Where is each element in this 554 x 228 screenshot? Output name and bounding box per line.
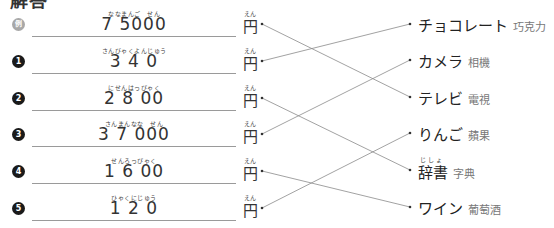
item-chinese: 字典 xyxy=(453,165,475,181)
item-dictionary: 辞書 字典 xyxy=(418,161,475,182)
left-dot[interactable] xyxy=(261,133,264,136)
number-badge-4: 4 xyxy=(12,165,25,178)
connection-line xyxy=(262,171,410,207)
amount-text: 3 4 0 xyxy=(32,51,236,71)
connection-line xyxy=(262,133,410,208)
item-chinese: 電視 xyxy=(468,91,490,107)
left-dot[interactable] xyxy=(261,97,264,100)
right-dot[interactable] xyxy=(409,23,412,26)
answer-underline xyxy=(32,110,236,111)
amount-text: 7 5000 xyxy=(32,14,236,34)
yen-label: 円 xyxy=(243,89,258,110)
item-japanese: りんご xyxy=(418,123,463,144)
left-dot[interactable] xyxy=(261,170,264,173)
item-tv: テレビ 電視 xyxy=(418,87,490,108)
left-dot[interactable] xyxy=(261,207,264,210)
item-japanese: テレビ xyxy=(418,87,463,108)
left-dot[interactable] xyxy=(261,23,264,26)
connection-line xyxy=(262,24,410,97)
right-dot[interactable] xyxy=(409,132,412,135)
amount-text: 3 7 000 xyxy=(32,124,236,144)
item-chinese: 巧克力 xyxy=(513,18,546,34)
item-chocolate: チョコレート 巧克力 xyxy=(418,14,546,35)
number-badge-2: 2 xyxy=(12,92,25,105)
number-badge-1: 1 xyxy=(12,55,25,68)
number-badge-5: 5 xyxy=(12,202,25,215)
item-apple: りんご 蘋果 xyxy=(418,123,490,144)
amount-text: 1 2 0 xyxy=(32,198,236,218)
left-dot[interactable] xyxy=(261,60,264,63)
connection-line xyxy=(262,98,410,170)
answer-underline xyxy=(32,146,236,147)
item-wine: ワイン 葡萄酒 xyxy=(418,197,501,218)
yen-label: 円 xyxy=(243,15,258,36)
item-chinese: 葡萄酒 xyxy=(468,201,501,217)
item-japanese: ワイン xyxy=(418,197,463,218)
yen-label: 円 xyxy=(243,199,258,220)
answer-underline xyxy=(32,183,236,184)
item-chinese: 相機 xyxy=(468,54,490,70)
right-dot[interactable] xyxy=(409,59,412,62)
amount-text: 1 6 00 xyxy=(32,161,236,181)
item-chinese: 蘋果 xyxy=(468,127,490,143)
yen-label: 円 xyxy=(243,52,258,73)
connection-line xyxy=(262,60,410,134)
answer-underline xyxy=(32,220,236,221)
example-badge: 例 xyxy=(12,18,25,31)
item-camera: カメラ 相機 xyxy=(418,50,490,71)
item-japanese: チョコレート xyxy=(418,14,508,35)
connection-line xyxy=(262,24,410,61)
yen-label: 円 xyxy=(243,162,258,183)
answer-underline xyxy=(32,73,236,74)
number-badge-3: 3 xyxy=(12,128,25,141)
right-dot[interactable] xyxy=(409,96,412,99)
item-japanese: カメラ xyxy=(418,50,463,71)
right-dot[interactable] xyxy=(409,206,412,209)
answer-underline xyxy=(32,36,236,37)
yen-label: 円 xyxy=(243,125,258,146)
item-japanese: 辞書 xyxy=(418,161,448,182)
right-dot[interactable] xyxy=(409,169,412,172)
amount-text: 2 8 00 xyxy=(32,88,236,108)
